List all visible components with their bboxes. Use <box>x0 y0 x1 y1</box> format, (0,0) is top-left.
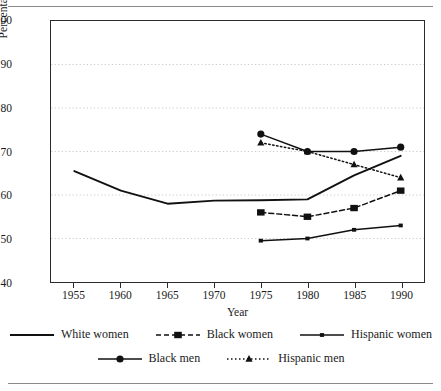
figure: Percentage of White Men's Income 4050607… <box>0 0 441 391</box>
data-point <box>259 239 263 243</box>
data-point <box>257 209 265 215</box>
data-point <box>397 187 405 193</box>
x-tick-mark <box>355 283 356 288</box>
plot-area <box>50 20 425 283</box>
legend-label: Black women <box>207 327 273 342</box>
y-axis-label: Percentage of White Men's Income <box>0 0 9 56</box>
legend-row-secondary: Black menHispanic men <box>0 351 441 366</box>
data-point <box>352 228 356 232</box>
legend-item[interactable]: White women <box>9 327 129 342</box>
x-tick-mark <box>308 283 309 288</box>
series-hispanic-women <box>259 224 403 243</box>
x-tick-mark <box>214 283 215 288</box>
legend-label: Hispanic women <box>351 327 432 342</box>
legend: White womenBlack womenHispanic women Bla… <box>0 327 441 375</box>
x-tick-mark <box>167 283 168 288</box>
series-black-women <box>257 187 404 219</box>
y-tick-label: 80 <box>0 102 12 114</box>
data-point <box>257 131 264 138</box>
data-point <box>350 205 358 211</box>
x-tick-label: 1980 <box>283 289 333 301</box>
figure-rule-bottom <box>8 383 433 384</box>
legend-item[interactable]: Hispanic women <box>299 327 432 342</box>
x-tick-label: 1975 <box>236 289 286 301</box>
y-tick-label: 60 <box>0 189 12 201</box>
figure-rule-top <box>8 6 433 7</box>
x-tick-label: 1970 <box>189 289 239 301</box>
y-tick-label: 90 <box>0 58 12 70</box>
y-tick-label: 100 <box>0 14 12 26</box>
data-point <box>305 237 309 241</box>
x-tick-label: 1985 <box>330 289 380 301</box>
data-point <box>397 174 404 181</box>
legend-item[interactable]: Hispanic men <box>226 351 344 366</box>
data-point <box>304 214 312 220</box>
series-white-women <box>74 156 400 204</box>
series-hispanic-men <box>257 139 404 180</box>
legend-swatch <box>299 329 345 341</box>
x-tick-label: 1965 <box>142 289 192 301</box>
data-point <box>350 148 357 155</box>
legend-label: Hispanic men <box>278 351 344 366</box>
x-tick-mark <box>261 283 262 288</box>
legend-item[interactable]: Black women <box>155 327 273 342</box>
x-tick-label: 1960 <box>95 289 145 301</box>
legend-swatch <box>155 329 201 341</box>
series-black-men <box>257 131 404 156</box>
x-tick-label: 1955 <box>48 289 98 301</box>
legend-item[interactable]: Black men <box>97 351 201 366</box>
y-tick-label: 50 <box>0 233 12 245</box>
x-tick-mark <box>120 283 121 288</box>
data-point <box>399 224 403 228</box>
data-point <box>397 144 404 151</box>
legend-label: White women <box>61 327 129 342</box>
x-tick-label: 1990 <box>377 289 427 301</box>
legend-swatch <box>97 353 143 365</box>
y-tick-label: 70 <box>0 146 12 158</box>
x-tick-mark <box>402 283 403 288</box>
y-tick-label: 40 <box>0 277 12 289</box>
legend-swatch <box>9 329 55 341</box>
data-series-layer <box>51 21 424 282</box>
legend-row-primary: White womenBlack womenHispanic women <box>0 327 441 342</box>
x-tick-mark <box>73 283 74 288</box>
x-axis-label: Year <box>50 306 425 318</box>
legend-label: Black men <box>149 351 201 366</box>
legend-swatch <box>226 353 272 365</box>
data-point <box>257 139 264 146</box>
